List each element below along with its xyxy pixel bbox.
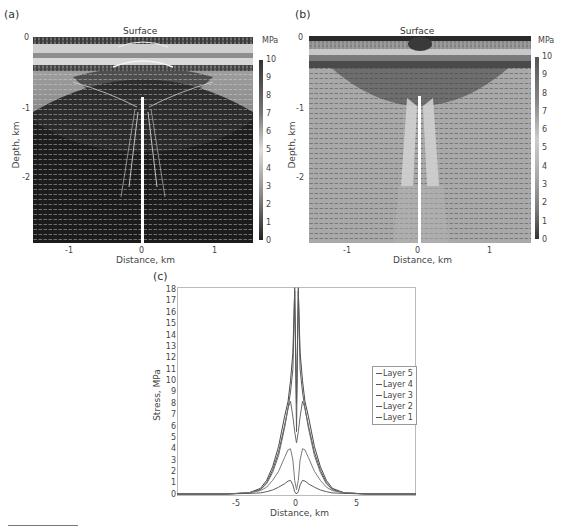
legend-swatch <box>376 384 382 385</box>
legend-item: Layer 1 <box>376 412 413 423</box>
ytick: 14 <box>160 331 176 340</box>
panel-b-xtick-2: 1 <box>487 246 492 255</box>
panel-c-label: (c) <box>153 270 168 283</box>
panel-a-ytick-1: -1 <box>22 104 30 113</box>
panel-c-xtick-0: -5 <box>232 499 240 508</box>
legend-item: Layer 3 <box>376 390 413 401</box>
panel-b-colorbar-ticks: 10 9 8 7 6 5 4 3 2 1 0 <box>542 52 552 244</box>
cb-a-tick: 5 <box>266 145 276 154</box>
panel-a-surface-label: Surface <box>123 26 157 36</box>
panel-b-ylabel: Depth, km <box>287 115 297 175</box>
panel-b-colorbar <box>535 57 539 239</box>
ytick: 16 <box>160 308 176 317</box>
legend-swatch <box>376 417 382 418</box>
cb-b-tick: 9 <box>542 70 552 79</box>
panel-a-ylabel: Depth, km <box>11 115 21 175</box>
panel-a-heatmap <box>33 37 253 243</box>
legend-item: Layer 5 <box>376 368 413 379</box>
cb-b-tick: 1 <box>542 217 552 226</box>
panel-b-label: (b) <box>295 8 311 21</box>
cb-a-tick: 9 <box>266 73 276 82</box>
panel-a-xlabel: Distance, km <box>116 255 175 265</box>
ytick: 2 <box>160 467 176 476</box>
panel-b-colorbar-unit: MPa <box>538 36 554 45</box>
legend-swatch <box>376 373 382 374</box>
ytick: 11 <box>160 365 176 374</box>
ytick: 8 <box>160 399 176 408</box>
panel-a-ytick-2: -2 <box>22 173 30 182</box>
cb-a-tick: 1 <box>266 218 276 227</box>
legend-label: Layer 3 <box>383 390 413 401</box>
cb-b-tick: 10 <box>542 52 552 61</box>
panel-c-ytick-labels: 18 17 16 15 14 13 12 11 10 9 8 7 6 5 4 3… <box>160 285 176 499</box>
cb-a-tick: 8 <box>266 91 276 100</box>
panel-a-colorbar-unit: MPa <box>262 36 278 45</box>
cb-a-tick: 10 <box>266 55 276 64</box>
cb-b-tick: 5 <box>542 143 552 152</box>
panel-b-xtick-0: -1 <box>343 246 351 255</box>
legend-swatch <box>376 395 382 396</box>
panel-a-label: (a) <box>4 8 19 21</box>
cb-b-tick: 6 <box>542 125 552 134</box>
cb-b-tick: 2 <box>542 198 552 207</box>
legend-label: Layer 1 <box>383 412 413 423</box>
ytick: 9 <box>160 387 176 396</box>
panel-b-xtick-1: 0 <box>415 246 420 255</box>
panel-b-heatmap <box>309 36 531 243</box>
legend-swatch <box>376 406 382 407</box>
ytick: 4 <box>160 444 176 453</box>
ytick: 17 <box>160 296 176 305</box>
panel-b-surface-label: Surface <box>400 26 434 36</box>
cb-a-tick: 7 <box>266 109 276 118</box>
cb-b-tick: 3 <box>542 180 552 189</box>
panel-c-legend: Layer 5 Layer 4 Layer 3 Layer 2 Layer 1 <box>372 366 417 425</box>
panel-a-colorbar-ticks: 10 9 8 7 6 5 4 3 2 1 0 <box>266 55 276 245</box>
cb-a-tick: 3 <box>266 182 276 191</box>
panel-a-ytick-0: 0 <box>24 33 29 42</box>
panel-b-ytick-0: 0 <box>298 33 303 42</box>
cb-a-tick: 6 <box>266 127 276 136</box>
ytick: 7 <box>160 410 176 419</box>
cb-b-tick: 0 <box>542 235 552 244</box>
legend-label: Layer 5 <box>383 368 413 379</box>
panel-a-xtick-1: 0 <box>139 246 144 255</box>
panel-b-ytick-1: -1 <box>296 104 304 113</box>
ytick: 18 <box>160 285 176 294</box>
ytick: 5 <box>160 433 176 442</box>
panel-c-xtick-2: 5 <box>354 499 359 508</box>
legend-label: Layer 2 <box>383 401 413 412</box>
cb-b-tick: 8 <box>542 89 552 98</box>
legend-item: Layer 4 <box>376 379 413 390</box>
cb-a-tick: 0 <box>266 236 276 245</box>
panel-a-colorbar <box>259 60 263 240</box>
ytick: 3 <box>160 456 176 465</box>
panel-c-xlabel: Distance, km <box>270 508 329 518</box>
legend-item: Layer 2 <box>376 401 413 412</box>
panel-b-ytick-2: -2 <box>296 173 304 182</box>
ytick: 1 <box>160 478 176 487</box>
cb-a-tick: 4 <box>266 164 276 173</box>
ytick: 12 <box>160 353 176 362</box>
cb-b-tick: 7 <box>542 107 552 116</box>
panel-a-xtick-0: -1 <box>65 246 73 255</box>
panel-c-ylabel: Stress, MPa <box>152 360 162 430</box>
ytick: 10 <box>160 376 176 385</box>
panel-c-xtick-1: 0 <box>293 499 298 508</box>
cb-a-tick: 2 <box>266 200 276 209</box>
ytick: 6 <box>160 422 176 431</box>
panel-b-xlabel: Distance, km <box>393 255 452 265</box>
ytick: 15 <box>160 319 176 328</box>
ytick: 0 <box>160 490 176 499</box>
footnote-rule <box>8 525 78 526</box>
legend-label: Layer 4 <box>383 379 413 390</box>
ytick: 13 <box>160 342 176 351</box>
panel-a-xtick-2: 1 <box>212 246 217 255</box>
cb-b-tick: 4 <box>542 162 552 171</box>
